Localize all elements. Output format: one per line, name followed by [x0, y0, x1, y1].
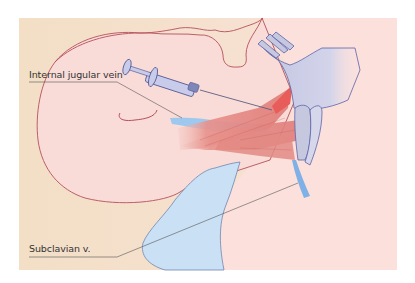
illustration: Internal jugular vein Subclavian v.: [0, 0, 415, 283]
label-internal-jugular-vein: Internal jugular vein: [29, 69, 123, 80]
label-subclavian-vein: Subclavian v.: [29, 243, 91, 254]
illustration-canvas: [0, 0, 415, 283]
